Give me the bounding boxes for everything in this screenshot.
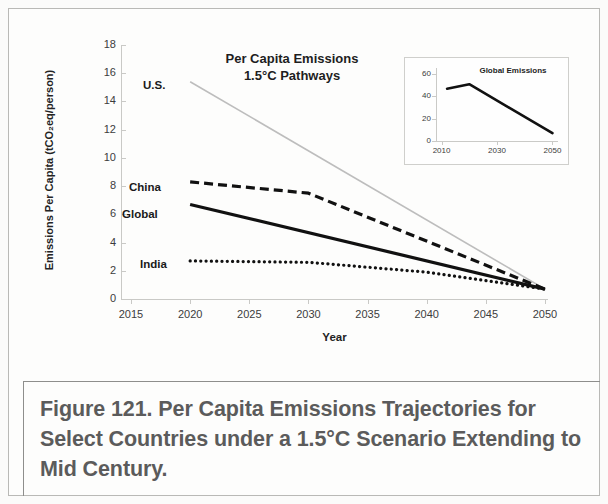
series-label-india: India <box>140 258 167 270</box>
caption-left-rule <box>23 381 24 496</box>
scanned-page: 024681012141618 201520202025203020352040… <box>0 0 608 504</box>
figure-caption: Figure 121. Per Capita Emissions Traject… <box>40 394 585 484</box>
caption-divider <box>23 381 600 382</box>
figure-chart-area: 024681012141618 201520202025203020352040… <box>9 9 599 379</box>
series-line-china <box>190 182 545 289</box>
series-label-us: U.S. <box>143 79 165 91</box>
inset-chart: Global Emissions 0204060 201020302050 <box>404 57 569 165</box>
series-label-global: Global <box>122 208 158 220</box>
series-label-china: China <box>129 181 161 193</box>
inset-series-line <box>405 58 570 166</box>
